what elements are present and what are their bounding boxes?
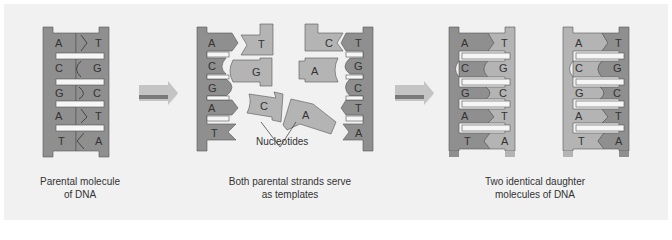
nucleotide-label: G [252,66,261,78]
base-label: T [615,110,622,122]
base-label: T [95,37,102,49]
base-label: A [575,110,583,122]
parental-molecule: A C G A T T G C T A [43,27,109,157]
base-label: G [613,62,622,74]
daughter-molecule-2: A C G A T T G C T A [563,27,629,157]
base-label: G [499,62,508,74]
nucleotide-label: C [260,100,268,112]
base-label: T [95,110,102,122]
base-label: G [93,62,102,74]
base-label: C [613,87,621,99]
base-label: A [615,135,623,147]
nucleotide-label: A [311,65,319,77]
caption-line: Parental molecule [20,175,140,188]
nucleotides-label: Nucleotides [256,136,308,147]
nucleotide-label: T [258,38,265,50]
caption-line: Both parental strands serve [205,175,375,188]
caption-line: as templates [205,188,375,201]
nucleotide-label: A [302,109,310,121]
nucleotide-label: C [325,37,333,49]
caption-line: of DNA [20,188,140,201]
base-label: G [55,87,64,99]
base-label: C [93,87,101,99]
base-label: C [461,62,469,74]
process-arrow-icon [139,81,178,105]
process-arrow-icon [395,81,434,105]
base-label: G [461,87,470,99]
base-label: G [575,87,584,99]
base-label: A [461,37,469,49]
base-label: C [55,62,63,74]
base-label: T [355,102,362,114]
base-label: A [55,110,63,122]
base-label: A [501,135,509,147]
base-label: G [354,60,363,72]
base-label: A [55,37,63,49]
base-label: A [461,110,469,122]
daughter-molecule-1: A C G A T T G C T A [449,27,515,157]
base-label: C [499,87,507,99]
base-label: A [575,37,583,49]
base-label: G [208,82,217,94]
base-label: A [95,135,103,147]
base-label: T [355,37,362,49]
base-label: A [355,127,363,139]
base-label: A [208,102,216,114]
caption-templates: Both parental strands serve as templates [205,175,375,201]
base-label: T [211,127,218,139]
template-strands: A C G A T T G C T A T G C A C A Nucleoti… [197,24,373,151]
base-label: A [208,37,216,49]
base-label: C [354,82,362,94]
base-label: C [575,62,583,74]
base-label: T [464,135,471,147]
base-label: C [208,60,216,72]
base-label: T [501,37,508,49]
base-label: T [615,37,622,49]
caption-line: Two identical daughter [470,175,600,188]
caption-line: molecules of DNA [470,188,600,201]
caption-daughters: Two identical daughter molecules of DNA [470,175,600,201]
caption-parental: Parental molecule of DNA [20,175,140,201]
base-label: T [58,135,65,147]
base-label: T [501,110,508,122]
base-label: T [578,135,585,147]
